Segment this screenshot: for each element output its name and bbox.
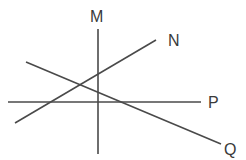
line-q bbox=[26, 62, 221, 144]
label-m: M bbox=[90, 8, 103, 25]
line-diagram: M N P Q bbox=[0, 0, 246, 160]
label-n: N bbox=[168, 32, 180, 49]
label-p: P bbox=[208, 94, 219, 111]
label-q: Q bbox=[224, 141, 236, 158]
line-n bbox=[15, 40, 156, 123]
